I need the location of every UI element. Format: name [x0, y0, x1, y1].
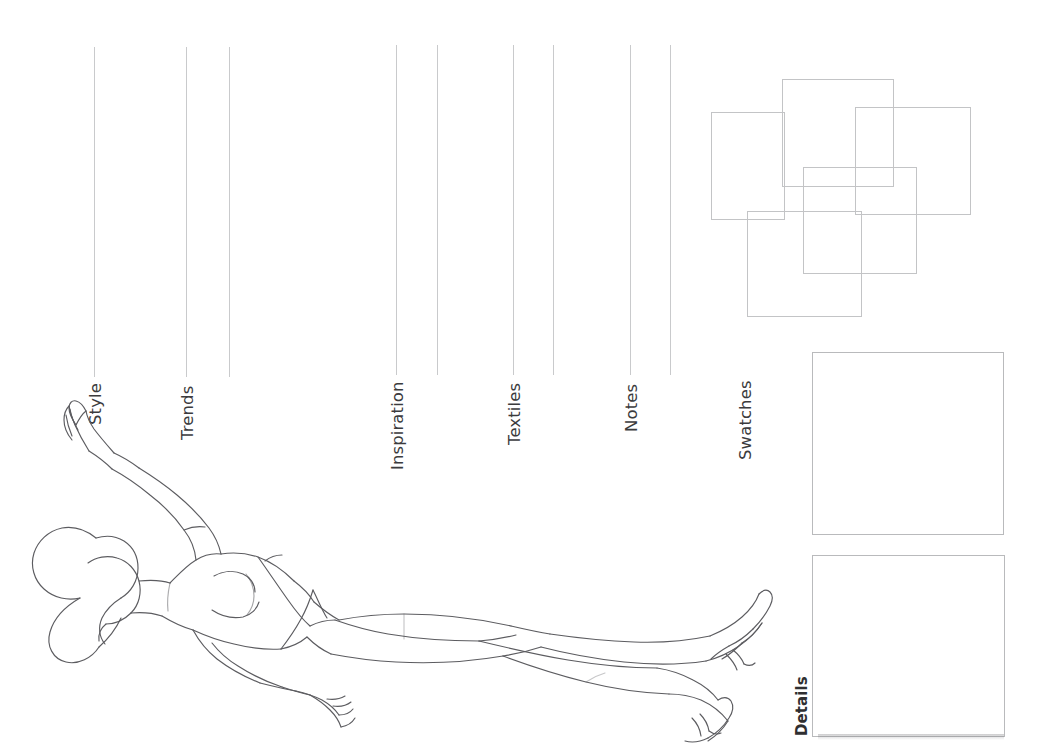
detail-box-lower[interactable] — [812, 555, 1005, 737]
page-bottom-shadow — [818, 734, 1004, 740]
fashion-croquis-figure — [0, 400, 800, 743]
section-rule-7 — [553, 45, 554, 375]
section-rule-2 — [186, 47, 187, 377]
section-rule-9 — [670, 45, 671, 375]
section-rule-4 — [396, 45, 397, 375]
swatch-square-5[interactable] — [747, 211, 862, 317]
section-rule-3 — [229, 47, 230, 377]
detail-box-upper[interactable] — [812, 352, 1004, 535]
swatch-square-1[interactable] — [711, 112, 785, 220]
section-rule-5 — [437, 45, 438, 375]
section-rule-6 — [513, 45, 514, 375]
section-rule-8 — [630, 45, 631, 375]
worksheet-page: Style Trends Inspiration Textiles Notes … — [0, 0, 1047, 743]
section-rule-1 — [94, 47, 95, 377]
